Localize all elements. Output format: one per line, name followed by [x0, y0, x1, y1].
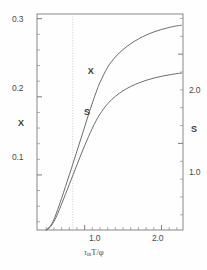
- y-left-tick-label-0: 0.3: [12, 14, 23, 24]
- y-left-tick-label-2: 0.1: [12, 152, 23, 162]
- x-tick-label-0: 1.0: [89, 233, 100, 243]
- curve-x: [46, 25, 181, 229]
- y-left-tick-label-1: 0.2: [12, 83, 23, 93]
- left-axis-ticks: [37, 19, 42, 222]
- right-axis-ticks: [178, 18, 183, 214]
- x-tick-label-1: 2.0: [152, 233, 163, 243]
- bottom-axis-ticks: [46, 225, 177, 230]
- data-curves: [46, 25, 181, 230]
- figure-canvas: 0.3 0.2 0.1 X 2.0 1.0 S 1.0 2.0 τinT/φ X…: [0, 0, 207, 270]
- plot-frame: [37, 14, 183, 230]
- curve-s: [46, 73, 181, 230]
- y-left-axis-title: X: [18, 118, 24, 128]
- y-right-tick-label-1: 1.0: [189, 167, 200, 177]
- x-axis-title-main: T/φ: [91, 247, 103, 257]
- y-right-tick-label-0: 2.0: [189, 85, 200, 95]
- x-axis-title: τinT/φ: [84, 247, 104, 257]
- curve-label-s: S: [84, 107, 90, 117]
- y-right-axis-title: S: [191, 124, 197, 134]
- plot-area: [0, 0, 207, 270]
- curve-label-x: X: [88, 66, 94, 76]
